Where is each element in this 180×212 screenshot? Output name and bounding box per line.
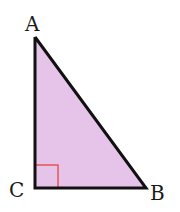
vertex-label-a: A [24,12,40,36]
vertex-label-c: C [9,178,24,202]
vertex-label-b: B [150,181,165,205]
triangle-diagram: A C B [0,0,180,212]
